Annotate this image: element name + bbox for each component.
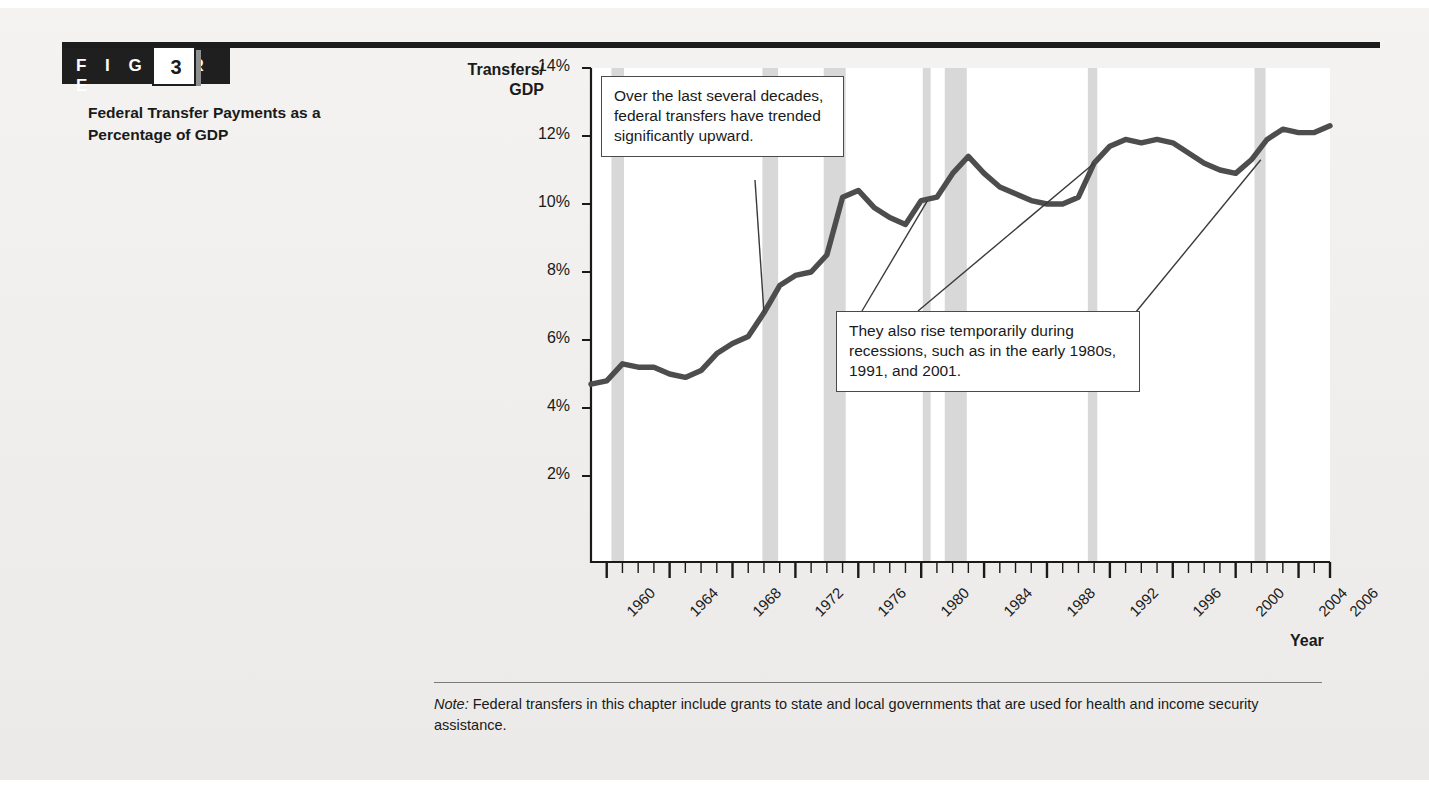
figure-page: F I G U R E 3 Federal Transfer Payments … bbox=[0, 0, 1429, 798]
y-axis-tick-label: 14% bbox=[510, 57, 570, 75]
note-label: Note: bbox=[434, 696, 469, 712]
callout-recessions: They also rise temporarily during recess… bbox=[836, 311, 1140, 392]
y-axis-tick-label: 12% bbox=[510, 125, 570, 143]
figure-note: Note: Federal transfers in this chapter … bbox=[434, 694, 1326, 736]
note-body: Federal transfers in this chapter includ… bbox=[434, 696, 1259, 733]
y-axis-tick-label: 6% bbox=[510, 329, 570, 347]
note-divider bbox=[434, 682, 1322, 683]
callout-trend: Over the last several decades, federal t… bbox=[601, 76, 844, 157]
y-axis-tick-label: 4% bbox=[510, 397, 570, 415]
y-axis-tick-label: 2% bbox=[510, 465, 570, 483]
y-axis-tick-label: 8% bbox=[510, 261, 570, 279]
chart-container: Transfers/GDP Year 14%12%10%8%6%4%2% 196… bbox=[0, 0, 1429, 798]
y-axis-tick-label: 10% bbox=[510, 193, 570, 211]
